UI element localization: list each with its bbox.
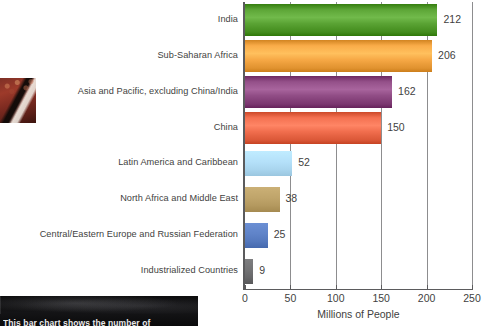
x-axis-tick-label: 150 bbox=[361, 292, 401, 304]
bar[interactable] bbox=[245, 4, 437, 36]
bar-category-label: China bbox=[0, 122, 238, 132]
photo-thumbnail-bottom: This bar chart shows the number of bbox=[0, 296, 198, 326]
x-axis-line bbox=[243, 289, 473, 290]
bar-category-label: India bbox=[0, 14, 238, 24]
bar-value-label: 9 bbox=[259, 264, 265, 276]
x-axis-tick-label: 50 bbox=[270, 292, 310, 304]
bar[interactable] bbox=[245, 76, 392, 108]
x-axis-tick bbox=[472, 285, 473, 290]
bar[interactable] bbox=[245, 223, 268, 248]
bar-category-label: Central/Eastern Europe and Russian Feder… bbox=[0, 229, 238, 239]
bar-value-label: 212 bbox=[443, 13, 461, 25]
x-axis-tick bbox=[290, 285, 291, 290]
bar[interactable] bbox=[245, 259, 253, 284]
bar[interactable] bbox=[245, 112, 381, 144]
chart-caption: This bar chart shows the number of bbox=[3, 318, 195, 326]
bar-value-label: 38 bbox=[286, 192, 298, 204]
x-axis-tick bbox=[381, 285, 382, 290]
y-axis-line bbox=[243, 2, 245, 289]
bar[interactable] bbox=[245, 151, 292, 176]
x-axis-tick bbox=[336, 285, 337, 290]
bar-chart: India212Sub-Saharan Africa206Asia and Pa… bbox=[0, 0, 485, 326]
bar-value-label: 206 bbox=[438, 49, 456, 61]
x-axis-tick bbox=[427, 285, 428, 290]
x-axis-tick-label: 0 bbox=[225, 292, 265, 304]
x-axis-tick-label: 200 bbox=[407, 292, 447, 304]
bar-value-label: 25 bbox=[274, 228, 286, 240]
x-axis-title: Millions of People bbox=[205, 308, 485, 320]
figure: India212Sub-Saharan Africa206Asia and Pa… bbox=[0, 0, 485, 326]
bar-category-label: Latin America and Caribbean bbox=[0, 157, 238, 167]
bar-value-label: 150 bbox=[387, 121, 405, 133]
bar-category-label: Sub-Saharan Africa bbox=[0, 50, 238, 60]
x-axis-tick-label: 100 bbox=[316, 292, 356, 304]
bar[interactable] bbox=[245, 40, 432, 72]
x-axis-tick-label: 250 bbox=[452, 292, 485, 304]
bar-value-label: 162 bbox=[398, 85, 416, 97]
bar-category-label: Industrialized Countries bbox=[0, 265, 238, 275]
gridline bbox=[472, 2, 473, 289]
bar-category-label: Asia and Pacific, excluding China/India bbox=[0, 86, 238, 96]
bar-value-label: 52 bbox=[298, 156, 310, 168]
x-axis-tick bbox=[245, 285, 246, 290]
bar-category-label: North Africa and Middle East bbox=[0, 193, 238, 203]
bar[interactable] bbox=[245, 187, 280, 212]
